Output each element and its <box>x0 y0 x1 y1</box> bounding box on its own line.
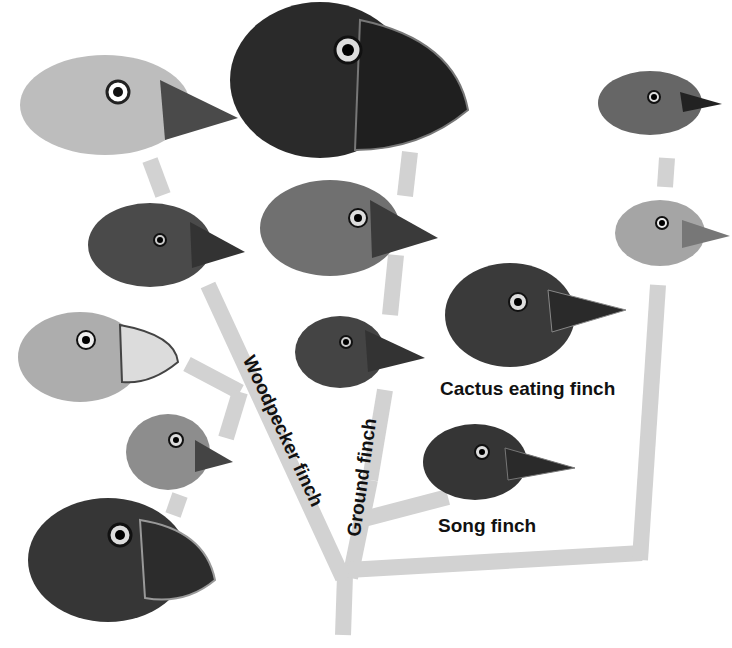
finch-tree-diagram <box>0 0 732 648</box>
bird-head-top-right <box>598 71 722 135</box>
bird-head-cactus <box>445 263 626 367</box>
bird-head-left-3 <box>18 312 178 402</box>
bird-head-mid-3 <box>295 316 425 388</box>
bird-head-left-2 <box>88 203 245 287</box>
bird-head-large-ground <box>230 2 468 158</box>
bird-head-top-left <box>20 55 238 155</box>
right-top-stub <box>665 158 667 187</box>
label-song-finch: Song finch <box>438 515 536 537</box>
bird-heads <box>18 2 730 622</box>
left-bottom-stub <box>173 495 180 515</box>
ground-top-stub <box>405 152 410 196</box>
right-horizontal-branch <box>348 553 642 570</box>
bird-head-bottom-left <box>28 498 215 622</box>
left-fork-upper <box>187 364 240 392</box>
bird-head-song <box>423 424 575 500</box>
right-vertical-branch <box>640 285 658 560</box>
ground-mid-stub <box>390 255 396 315</box>
label-cactus-eating-finch: Cactus eating finch <box>440 378 615 400</box>
bird-head-left-4 <box>126 414 233 490</box>
left-fork-lower <box>226 392 240 438</box>
bird-head-right-2 <box>615 200 730 266</box>
left-top-stub <box>150 160 163 195</box>
trunk-branch <box>343 575 345 635</box>
